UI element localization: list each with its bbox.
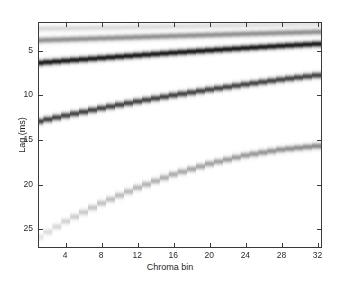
x-tick-mark	[318, 243, 319, 247]
x-tick-label: 12	[132, 250, 141, 260]
y-axis-label: Lag (ms)	[17, 117, 27, 153]
x-axis-label: Chroma bin	[0, 262, 340, 272]
x-tick-mark	[66, 243, 67, 247]
y-tick-mark	[317, 51, 321, 52]
x-tick-label: 20	[205, 250, 214, 260]
y-tick-label: 10	[24, 89, 33, 99]
y-tick-mark	[39, 229, 43, 230]
x-tick-mark	[210, 23, 211, 27]
y-tick-mark	[39, 95, 43, 96]
x-tick-label: 24	[241, 250, 250, 260]
x-tick-label: 32	[313, 250, 322, 260]
y-tick-mark	[39, 140, 43, 141]
y-tick-mark	[317, 229, 321, 230]
x-tick-label: 16	[169, 250, 178, 260]
x-tick-mark	[174, 23, 175, 27]
x-tick-mark	[318, 23, 319, 27]
x-tick-label: 4	[63, 250, 68, 260]
x-tick-mark	[66, 23, 67, 27]
y-tick-mark	[317, 185, 321, 186]
x-tick-mark	[246, 23, 247, 27]
y-tick-mark	[39, 51, 43, 52]
x-tick-mark	[246, 243, 247, 247]
x-tick-mark	[138, 243, 139, 247]
figure-container: 48121620242832 510152025 Chroma bin Lag …	[0, 0, 340, 284]
x-tick-mark	[102, 243, 103, 247]
y-tick-label: 5	[28, 45, 33, 55]
x-tick-mark	[138, 23, 139, 27]
x-tick-mark	[102, 23, 103, 27]
y-tick-mark	[39, 185, 43, 186]
y-tick-label: 20	[24, 179, 33, 189]
y-tick-label: 25	[24, 223, 33, 233]
x-tick-mark	[210, 243, 211, 247]
x-tick-mark	[282, 243, 283, 247]
plot-area	[38, 22, 322, 248]
y-tick-mark	[317, 140, 321, 141]
x-tick-label: 8	[99, 250, 104, 260]
x-tick-mark	[174, 243, 175, 247]
x-tick-mark	[282, 23, 283, 27]
x-tick-label: 28	[277, 250, 286, 260]
y-tick-mark	[317, 95, 321, 96]
heatmap-canvas	[39, 23, 321, 247]
